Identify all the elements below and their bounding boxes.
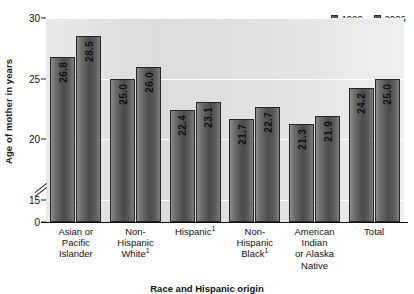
bar: 23.1: [196, 102, 221, 222]
x-axis-category-label: Non-HispanicBlack1: [225, 226, 285, 260]
bar-value-label: 23.1: [203, 107, 214, 128]
x-axis-category-label: Asian orPacificIslander: [46, 226, 106, 260]
category-label-line: Indian: [285, 237, 345, 248]
bar: 24.2: [349, 88, 374, 222]
category-label-line: Non-: [225, 226, 285, 237]
bar: 21.7: [229, 119, 254, 222]
x-axis-category-label: Total: [344, 226, 404, 237]
category-label-line: Hispanic1: [165, 226, 225, 237]
bar-value-label: 26.8: [57, 62, 68, 83]
category-label-line: White1: [106, 248, 166, 259]
y-axis-tick-label: 30: [0, 13, 40, 24]
bar: 26.8: [50, 57, 75, 222]
y-axis-tick-label: 25: [0, 73, 40, 84]
bar-value-label: 24.2: [356, 93, 367, 114]
category-label-line: Asian or: [46, 226, 106, 237]
category-label-line: Native: [285, 260, 345, 271]
category-label-line: American: [285, 226, 345, 237]
bar-value-label: 25.0: [117, 84, 128, 105]
bar: 22.4: [170, 110, 195, 222]
y-axis-title: Age of mother in years: [1, 36, 15, 186]
bar-value-label: 21.9: [322, 121, 333, 142]
bar-value-label: 28.5: [83, 41, 94, 62]
bar: 28.5: [76, 36, 101, 222]
bar-value-label: 22.4: [177, 115, 188, 136]
x-axis-category-labels: Asian orPacificIslanderNon-HispanicWhite…: [46, 226, 404, 290]
y-axis-tick-label: 0: [0, 217, 40, 228]
bar: 21.9: [315, 116, 340, 222]
bar: 21.3: [289, 124, 314, 222]
bar: 26.0: [136, 67, 161, 222]
x-axis-title: Race and Hispanic origin: [0, 283, 414, 294]
footnote-marker: 1: [264, 247, 268, 254]
bar-value-label: 25.0: [382, 84, 393, 105]
category-label-line: Non-: [106, 226, 166, 237]
bar-value-label: 22.7: [262, 112, 273, 133]
bar: 22.7: [255, 107, 280, 222]
footnote-marker: 1: [211, 225, 215, 232]
footnote-marker: 1: [146, 247, 150, 254]
x-axis-category-label: AmericanIndianor AlaskaNative: [285, 226, 345, 271]
bar-series-layer: 26.828.525.026.022.423.121.722.721.321.9…: [46, 18, 404, 222]
x-axis-category-label: Non-HispanicWhite1: [106, 226, 166, 260]
bar: 25.0: [375, 79, 400, 222]
category-label-line: Pacific: [46, 237, 106, 248]
category-label-line: Hispanic: [106, 237, 166, 248]
y-axis-tick-label: 20: [0, 134, 40, 145]
x-axis-line: [41, 222, 408, 223]
category-label-line: Total: [344, 226, 404, 237]
bar-value-label: 21.3: [296, 129, 307, 150]
category-label-line: Hispanic: [225, 237, 285, 248]
x-axis-category-label: Hispanic1: [165, 226, 225, 237]
category-label-line: Black1: [225, 248, 285, 259]
bar-value-label: 21.7: [236, 124, 247, 145]
bar-value-label: 26.0: [143, 72, 154, 93]
category-label-line: Islander: [46, 248, 106, 259]
category-label-line: or Alaska: [285, 248, 345, 259]
bar: 25.0: [110, 79, 135, 222]
